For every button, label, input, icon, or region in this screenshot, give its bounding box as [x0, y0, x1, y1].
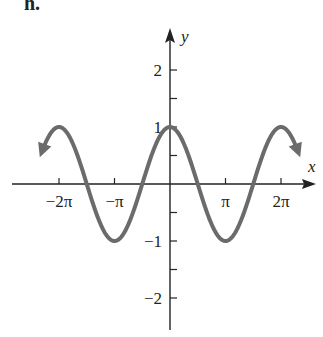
x-axis-arrow-icon: [302, 179, 316, 189]
y-axis-label: y: [179, 27, 189, 46]
cosine-graph: xy−2π−ππ2π21−1−2: [0, 0, 323, 337]
x-tick-label: 2π: [272, 192, 290, 211]
x-axis-label: x: [307, 157, 316, 176]
x-tick-label: −π: [105, 192, 124, 211]
y-tick-label: 2: [154, 61, 163, 80]
x-tick-label: −2π: [46, 192, 73, 211]
x-tick-label: π: [221, 192, 230, 211]
y-tick-label: −2: [144, 289, 162, 308]
y-tick-label: −1: [144, 232, 162, 251]
